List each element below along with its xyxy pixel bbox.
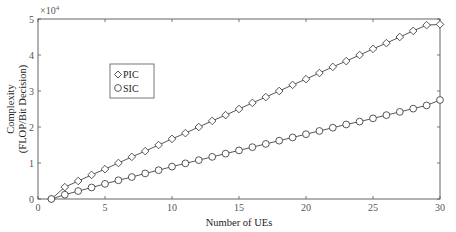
y-tick-label: 5: [29, 14, 34, 25]
y-tick-label: 4: [29, 50, 34, 61]
diamond-marker-icon: [182, 129, 190, 137]
circle-marker-icon: [303, 131, 310, 138]
diamond-marker-icon: [141, 147, 149, 155]
diamond-marker-icon: [275, 87, 283, 95]
x-tick-label: 15: [234, 202, 244, 213]
circle-marker-icon: [75, 188, 82, 195]
diamond-marker-icon: [356, 51, 364, 59]
circle-marker-icon: [249, 144, 256, 151]
diamond-marker-icon: [383, 39, 391, 47]
circle-marker-icon: [276, 137, 283, 144]
diamond-marker-icon: [369, 45, 377, 53]
x-tick-label: 20: [301, 202, 311, 213]
x-tick-label: 30: [435, 202, 445, 213]
legend-label-sic: SIC: [123, 83, 139, 94]
diamond-marker-icon: [396, 33, 404, 41]
circle-marker-icon: [410, 105, 417, 112]
diamond-marker-icon: [115, 159, 123, 167]
circle-marker-icon: [316, 128, 323, 135]
circle-marker-icon: [370, 115, 377, 122]
circle-marker-icon: [289, 134, 296, 141]
circle-marker-icon: [155, 167, 162, 174]
x-axis-label: Number of UEs: [206, 217, 273, 228]
series-line: [51, 100, 440, 199]
diamond-marker-icon: [74, 177, 82, 185]
circle-marker-icon: [396, 108, 403, 115]
circle-marker-icon: [115, 177, 122, 184]
diamond-marker-icon: [262, 93, 270, 101]
diamond-marker-icon: [316, 69, 324, 77]
series-layer: [48, 21, 444, 203]
y-tick-label: 0: [29, 194, 34, 205]
x-tick-label: 0: [36, 202, 41, 213]
series-sic: [48, 97, 443, 203]
x-tick-label: 5: [103, 202, 108, 213]
circle-marker-icon: [88, 184, 95, 191]
circle-marker-icon: [437, 97, 444, 104]
circle-marker-icon: [128, 174, 135, 181]
legend: PIC SIC: [110, 64, 154, 98]
circle-marker-icon: [182, 160, 189, 167]
diamond-marker-icon: [222, 111, 230, 119]
y-tick-label: 3: [29, 86, 34, 97]
circle-marker-icon: [343, 121, 350, 128]
y-axis-label-line1: Complexity: [5, 83, 16, 133]
diamond-marker-icon: [436, 21, 444, 29]
y-axis-label: Complexity (FLOP/Bit Decision): [5, 64, 29, 153]
chart-svg: 051015202530012345 ×104 Number of UEs Co…: [0, 0, 456, 232]
diamond-marker-icon: [128, 153, 136, 161]
circle-marker-icon: [169, 163, 176, 170]
diamond-marker-icon: [88, 171, 96, 179]
y-tick-label: 2: [29, 122, 34, 133]
diamond-marker-icon: [409, 27, 417, 35]
circle-marker-icon: [222, 150, 229, 157]
circle-marker-icon: [115, 85, 122, 92]
circle-marker-icon: [102, 180, 109, 187]
diamond-marker-icon: [249, 99, 257, 107]
diamond-marker-icon: [302, 75, 310, 83]
x-tick-label: 25: [368, 202, 378, 213]
diamond-marker-icon: [168, 135, 176, 143]
circle-marker-icon: [423, 102, 430, 109]
diamond-marker-icon: [195, 123, 203, 131]
legend-label-pic: PIC: [123, 69, 139, 80]
x-tick-label: 10: [167, 202, 177, 213]
legend-item-pic: PIC: [115, 69, 139, 80]
circle-marker-icon: [61, 191, 68, 198]
diamond-marker-icon: [235, 105, 243, 113]
circle-marker-icon: [329, 124, 336, 131]
diamond-marker-icon: [329, 63, 337, 71]
diamond-marker-icon: [101, 165, 109, 173]
series-line: [51, 24, 440, 199]
circle-marker-icon: [236, 147, 243, 154]
circle-marker-icon: [383, 112, 390, 119]
circle-marker-icon: [195, 157, 202, 164]
diamond-marker-icon: [342, 57, 350, 65]
y-tick-label: 1: [29, 158, 34, 169]
circle-marker-icon: [142, 170, 149, 177]
diamond-marker-icon: [289, 81, 297, 89]
circle-marker-icon: [209, 153, 216, 160]
diamond-marker-icon: [423, 21, 431, 29]
series-pic: [48, 21, 444, 203]
circle-marker-icon: [48, 196, 55, 203]
y-axis-label-line2: (FLOP/Bit Decision): [17, 64, 29, 153]
circle-marker-icon: [262, 141, 269, 148]
diamond-marker-icon: [155, 141, 163, 149]
circle-marker-icon: [356, 118, 363, 125]
y-multiplier: ×104: [40, 4, 60, 16]
diamond-marker-icon: [208, 117, 216, 125]
